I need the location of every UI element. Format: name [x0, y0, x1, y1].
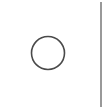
diagram-svg [0, 0, 106, 112]
diagram-canvas [0, 0, 106, 112]
center-circle [32, 37, 65, 70]
